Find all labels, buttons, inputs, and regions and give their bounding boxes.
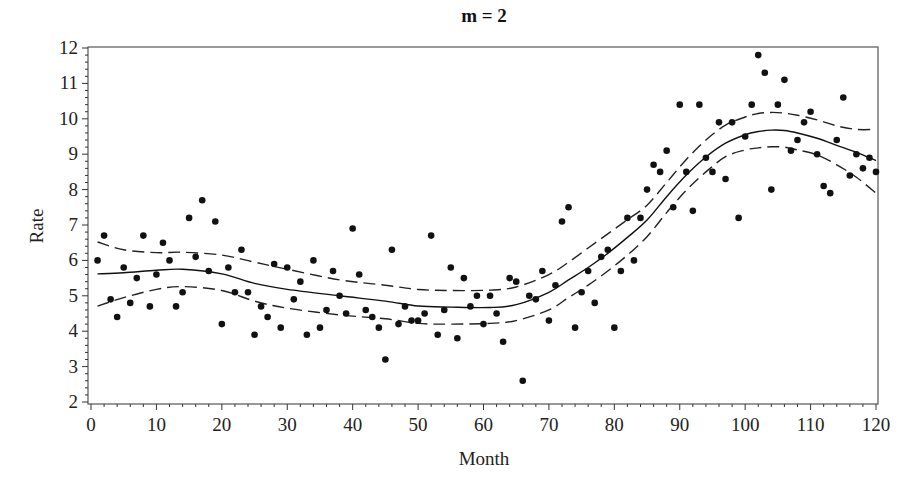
data-point <box>807 108 814 115</box>
data-point <box>585 268 592 275</box>
data-point <box>696 101 703 108</box>
chart: m = 2 23456789101112 0102030405060708090… <box>0 0 914 488</box>
data-point <box>761 69 768 76</box>
data-point <box>840 94 847 101</box>
data-point <box>199 197 206 204</box>
data-point <box>716 119 723 126</box>
x-tick-label: 20 <box>212 414 231 435</box>
y-tick-label: 6 <box>69 249 79 270</box>
data-point <box>166 257 173 264</box>
data-point <box>127 300 134 307</box>
data-point <box>755 52 762 59</box>
data-point <box>415 317 422 324</box>
data-point <box>461 275 468 282</box>
data-point <box>284 264 291 271</box>
lower-confidence-band <box>98 147 876 324</box>
data-point <box>637 215 644 222</box>
data-point <box>814 151 821 158</box>
data-point <box>572 324 579 331</box>
data-point <box>395 321 402 328</box>
y-tick-label: 11 <box>60 72 78 93</box>
data-point <box>611 324 618 331</box>
data-point <box>847 172 854 179</box>
data-point <box>794 137 801 144</box>
y-axis: 23456789101112 <box>59 37 88 412</box>
data-point <box>788 147 795 154</box>
data-point <box>604 246 611 253</box>
data-point <box>801 119 808 126</box>
data-point <box>748 101 755 108</box>
data-point <box>271 261 278 268</box>
data-point <box>533 296 540 303</box>
x-tick-label: 30 <box>278 414 297 435</box>
data-point <box>552 282 559 289</box>
data-point <box>336 293 343 300</box>
data-point <box>304 331 311 338</box>
data-point <box>173 303 180 310</box>
data-point <box>133 275 140 282</box>
data-point <box>559 218 566 225</box>
data-point <box>179 289 186 296</box>
data-point <box>506 275 513 282</box>
data-point <box>539 268 546 275</box>
data-point <box>676 101 683 108</box>
data-point <box>729 119 736 126</box>
x-tick-label: 110 <box>797 414 825 435</box>
data-point <box>323 307 330 314</box>
data-point <box>500 339 507 346</box>
y-tick-label: 2 <box>69 391 79 412</box>
y-tick-label: 12 <box>59 37 78 58</box>
data-point <box>258 303 265 310</box>
data-point <box>212 218 219 225</box>
data-point <box>624 215 631 222</box>
data-point <box>219 321 226 328</box>
data-point <box>205 268 212 275</box>
data-point <box>362 307 369 314</box>
data-point <box>670 204 677 211</box>
data-point <box>853 151 860 158</box>
data-point <box>251 331 258 338</box>
data-point <box>493 310 500 317</box>
data-point <box>474 293 481 300</box>
upper-confidence-band <box>98 112 876 290</box>
data-point <box>140 232 147 239</box>
data-point <box>546 317 553 324</box>
data-point <box>147 303 154 310</box>
fit-lines <box>98 112 876 324</box>
data-point <box>526 293 533 300</box>
data-point <box>447 264 454 271</box>
data-point <box>631 257 638 264</box>
data-point <box>735 215 742 222</box>
data-point <box>376 324 383 331</box>
plot-area <box>88 47 878 404</box>
x-tick-label: 40 <box>343 414 362 435</box>
data-point <box>277 324 284 331</box>
data-point <box>644 186 651 193</box>
y-tick-label: 10 <box>59 108 78 129</box>
data-point <box>866 154 873 161</box>
data-point <box>519 377 526 384</box>
data-point <box>709 169 716 176</box>
y-tick-label: 5 <box>69 285 79 306</box>
data-point <box>232 289 239 296</box>
data-point <box>434 331 441 338</box>
data-point <box>343 310 350 317</box>
data-point <box>742 133 749 140</box>
data-point <box>402 303 409 310</box>
data-point <box>107 296 114 303</box>
data-point <box>873 169 880 176</box>
data-point <box>833 137 840 144</box>
x-tick-label: 70 <box>539 414 558 435</box>
x-tick-label: 10 <box>147 414 166 435</box>
data-point <box>290 296 297 303</box>
data-point <box>487 293 494 300</box>
x-tick-label: 100 <box>731 414 760 435</box>
x-tick-label: 90 <box>670 414 689 435</box>
data-point <box>703 154 710 161</box>
data-point <box>310 257 317 264</box>
data-point <box>820 183 827 190</box>
data-point <box>480 321 487 328</box>
y-tick-label: 3 <box>69 356 79 377</box>
data-point <box>663 147 670 154</box>
data-point <box>389 246 396 253</box>
